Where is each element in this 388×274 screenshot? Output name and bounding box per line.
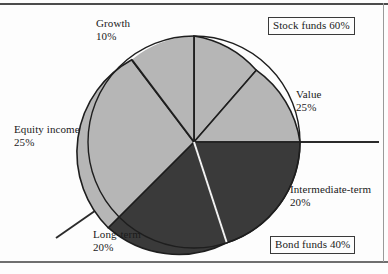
pie-chart-figure: Growth 10% Value 25% Equity income 25% I… [0,0,388,274]
group-box-stock-funds: Stock funds 60% [268,17,355,35]
label-growth-percent: 10% [96,30,130,43]
label-equity-income: Equity income 25% [14,123,80,148]
label-equity-income-percent: 25% [14,136,80,149]
group-box-bond-funds: Bond funds 40% [270,236,355,254]
label-intermediate-term: Intermediate-term 20% [290,183,371,208]
label-growth: Growth 10% [96,17,130,42]
label-value-percent: 25% [296,101,322,114]
label-equity-income-name: Equity income [14,123,80,135]
label-long-term-name: Long-term [93,228,141,240]
label-growth-name: Growth [96,17,130,29]
label-long-term-percent: 20% [93,241,141,254]
label-long-term: Long-term 20% [93,228,141,253]
label-value-name: Value [296,88,322,100]
label-intermediate-term-percent: 20% [290,196,371,209]
label-intermediate-term-name: Intermediate-term [290,183,371,195]
label-value: Value 25% [296,88,322,113]
